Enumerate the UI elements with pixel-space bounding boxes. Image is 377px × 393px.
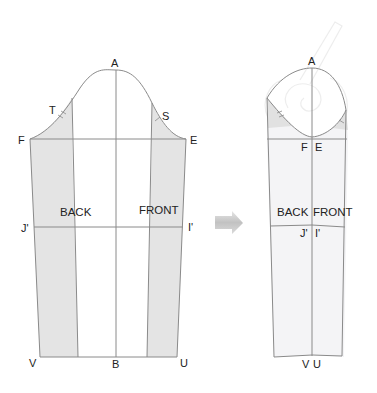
point-label-b: B	[112, 358, 119, 370]
point-label-v: V	[302, 358, 310, 370]
front-shaded-panel	[147, 103, 186, 357]
point-label-f: F	[301, 141, 308, 153]
watermark-logo	[265, 22, 347, 118]
back-piece-label: BACK	[277, 206, 309, 218]
point-label-e: E	[190, 134, 197, 146]
point-label-j-prime: J'	[21, 222, 29, 234]
back-piece-label: BACK	[60, 206, 92, 218]
point-label-e: E	[315, 141, 322, 153]
transform-arrow	[215, 211, 243, 234]
point-label-t: T	[49, 104, 56, 116]
point-label-j-prime: J'	[300, 227, 308, 239]
point-label-f: F	[18, 134, 25, 146]
right-sleeve-pattern: A F E BACK FRONT J' I' V U	[267, 55, 353, 370]
front-piece-label: FRONT	[313, 206, 353, 218]
sleeve-pattern-diagram: A T S F E J' I' V B U BACK FRONT	[0, 0, 377, 393]
arrow-right-icon	[215, 211, 243, 234]
point-label-u: U	[313, 358, 321, 370]
point-label-v: V	[29, 357, 37, 369]
point-label-s: S	[162, 110, 169, 122]
point-label-a: A	[308, 55, 316, 67]
point-label-a: A	[111, 57, 119, 69]
point-label-i-prime: I'	[188, 221, 193, 233]
point-label-u: U	[180, 357, 188, 369]
left-sleeve-pattern: A T S F E J' I' V B U BACK FRONT	[18, 57, 197, 370]
front-piece-label: FRONT	[139, 204, 179, 216]
point-label-i-prime: I'	[315, 227, 320, 239]
